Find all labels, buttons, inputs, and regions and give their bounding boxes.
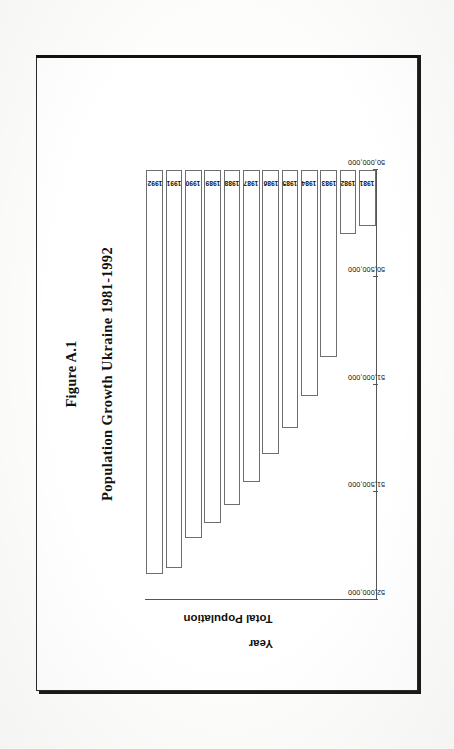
chart-surface: Figure A.1 Population Growth Ukraine 198… [37, 56, 419, 692]
figure-label: Figure A.1 [63, 56, 80, 692]
year-label-1992: 1992 [147, 180, 162, 187]
chart-title: Population Growth Ukraine 1981-1992 [99, 56, 116, 692]
bar-1988 [224, 170, 241, 505]
figure-frame: Figure A.1 Population Growth Ukraine 198… [36, 55, 418, 691]
bar-1984 [301, 170, 318, 396]
value-tick [373, 599, 378, 600]
year-label-1989: 1989 [205, 180, 220, 187]
year-label-1983: 1983 [321, 180, 336, 187]
bar-1981 [359, 170, 376, 226]
year-label-1986: 1986 [263, 180, 278, 187]
bar-row: 1983 [319, 170, 338, 600]
bar-1983 [320, 170, 337, 357]
bar-1987 [243, 170, 260, 482]
value-tick-label: 50,000,000 [348, 158, 385, 167]
year-label-1984: 1984 [302, 180, 317, 187]
year-label-1981: 1981 [360, 180, 375, 187]
figure-rotation-wrapper: Figure A.1 Population Growth Ukraine 198… [37, 56, 419, 692]
year-label-1988: 1988 [225, 180, 240, 187]
bar-row: 1989 [203, 170, 222, 600]
bar-row: 1987 [242, 170, 261, 600]
bar-1986 [262, 170, 279, 454]
scanned-page: Figure A.1 Population Growth Ukraine 198… [0, 0, 454, 749]
bar-series: 1992199119901989198819871986198519841983… [145, 170, 377, 600]
category-axis-title: Year [249, 638, 273, 650]
value-tick-label: 51,500,000 [348, 481, 385, 490]
bar-row: 1988 [222, 170, 241, 600]
year-label-1985: 1985 [283, 180, 298, 187]
year-label-1982: 1982 [341, 180, 356, 187]
value-tick [373, 492, 378, 493]
year-label-1987: 1987 [244, 180, 259, 187]
bar-1985 [282, 170, 299, 428]
bar-1992 [146, 170, 163, 574]
value-tick [373, 384, 378, 385]
value-tick-label: 50,500,000 [348, 266, 385, 275]
year-label-1990: 1990 [186, 180, 201, 187]
bar-row: 1986 [261, 170, 280, 600]
bar-row: 1992 [145, 170, 164, 600]
bar-row: 1984 [300, 170, 319, 600]
bar-row: 1990 [184, 170, 203, 600]
bar-row: 1982 [338, 170, 357, 600]
bar-row: 1991 [164, 170, 183, 600]
bar-1989 [204, 170, 221, 523]
bar-row: 1981 [358, 170, 377, 600]
year-label-1991: 1991 [167, 180, 182, 187]
bar-1991 [166, 170, 183, 568]
value-tick-label: 52,000,000 [348, 588, 385, 597]
bar-row: 1985 [280, 170, 299, 600]
plot-area: 1992199119901989198819871986198519841983… [145, 170, 377, 600]
bar-1990 [185, 170, 202, 538]
value-axis-title: Total Population [183, 613, 272, 625]
value-tick [373, 277, 378, 278]
value-tick-label: 51,000,000 [348, 373, 385, 382]
value-tick [373, 169, 378, 170]
